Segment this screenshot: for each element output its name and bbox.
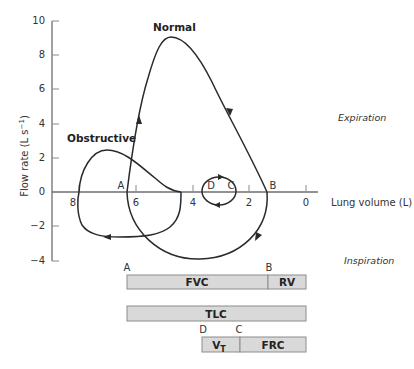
arrow-left-icon — [214, 202, 220, 208]
rv-label: RV — [279, 276, 296, 288]
y-tick-label: −4 — [30, 255, 45, 266]
y-tick-label: 4 — [39, 118, 45, 129]
point-label-c: C — [228, 180, 235, 191]
flow-volume-chart: 10 8 6 4 2 0 −2 −4 Flow rate (L s−1) 8 6… — [0, 0, 414, 369]
point-label-b: B — [270, 180, 277, 191]
x-tick-label: 4 — [190, 197, 196, 208]
expiration-label: Expiration — [338, 112, 386, 123]
fvc-label: FVC — [185, 276, 208, 288]
normal-expiration-curve — [127, 37, 267, 192]
x-tick-labels: 8 6 4 2 0 — [70, 197, 309, 208]
x-tick-label: 8 — [70, 197, 76, 208]
arrow-up-icon — [136, 115, 142, 124]
arrow-down-icon — [255, 232, 262, 241]
bar-label-d: D — [199, 324, 207, 335]
y-tick-label: 8 — [39, 49, 45, 60]
frc-label: FRC — [262, 339, 285, 351]
arrow-right-icon — [218, 174, 224, 180]
y-tick-labels: 10 8 6 4 2 0 −2 −4 — [30, 15, 45, 266]
obstructive-inspiration-curve — [78, 192, 181, 237]
x-tick-label: 2 — [246, 197, 252, 208]
y-ticks — [52, 21, 59, 261]
tlc-label: TLC — [205, 308, 227, 320]
y-tick-label: 6 — [39, 83, 45, 94]
inspiration-label: Inspiration — [344, 255, 394, 266]
y-tick-label: 0 — [39, 186, 45, 197]
y-tick-label: 2 — [39, 152, 45, 163]
y-tick-label: 10 — [32, 15, 45, 26]
x-axis-label: Lung volume (L) — [331, 197, 412, 208]
obstructive-series-label: Obstructive — [67, 132, 136, 144]
point-label-d: D — [207, 180, 215, 191]
y-tick-label: −2 — [30, 220, 45, 231]
x-tick-label: 0 — [303, 197, 309, 208]
arrow-left-icon — [103, 234, 111, 240]
bar-label-b: B — [266, 262, 273, 273]
x-tick-label: 6 — [133, 197, 139, 208]
y-axis-label: Flow rate (L s−1) — [18, 115, 30, 197]
point-label-a: A — [118, 180, 125, 191]
normal-series-label: Normal — [153, 21, 196, 33]
bar-label-a: A — [124, 262, 131, 273]
bar-label-c: C — [236, 324, 243, 335]
